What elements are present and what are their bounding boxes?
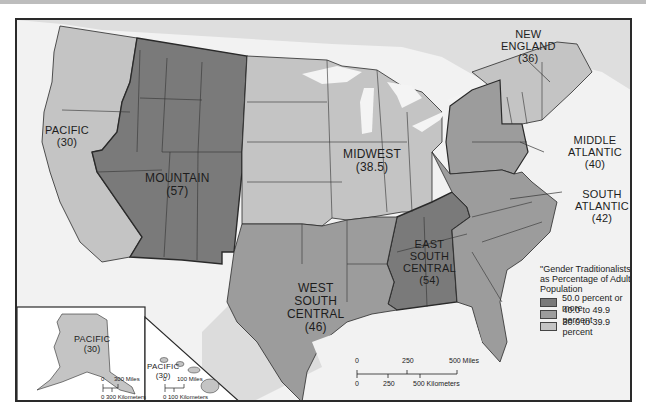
label-text: EAST [403,238,456,250]
legend-item-low: 30.0 to 39.9 percent [540,321,632,332]
legend-title: "Gender Traditionalists" as Percentage o… [540,264,632,294]
label-text: PACIFIC [45,124,89,136]
map-frame: PACIFIC (30) MOUNTAIN (57) MIDWEST (38.5… [15,18,632,402]
scale-label: 250 [402,357,414,364]
scale-label: 100 Miles [177,376,203,382]
scale-label: 0 300 Kilometers [101,394,146,400]
label-text: NEW [501,28,556,40]
label-west-south-central: WEST SOUTH CENTRAL (46) [287,282,344,334]
scale-label: 0 100 Kilometers [163,394,208,400]
label-text: ATLANTIC [568,146,622,158]
scale-label: 0 [355,357,359,364]
map-legend: "Gender Traditionalists" as Percentage o… [540,264,632,333]
label-value: (30) [45,136,89,148]
label-text: SOUTH [403,250,456,262]
label-east-south-central: EAST SOUTH CENTRAL (54) [403,238,456,286]
scale-label: 250 [383,380,395,387]
legend-label: 30.0 to 39.9 percent [562,317,632,337]
label-midwest: MIDWEST (38.5) [343,148,401,174]
label-text: PACIFIC [147,362,179,371]
label-pacific: PACIFIC (30) [45,124,89,148]
label-mountain: MOUNTAIN (57) [145,172,210,198]
label-value: (42) [575,212,629,224]
label-text: CENTRAL [403,262,456,274]
label-value: (40) [568,158,622,170]
label-value: (54) [403,274,456,286]
legend-swatch-mid [540,310,557,319]
scale-label: 0 [355,380,359,387]
label-text: ENGLAND [501,40,556,52]
label-text: SOUTH [575,188,629,200]
label-south-atlantic: SOUTH ATLANTIC (42) [575,188,629,224]
label-text: PACIFIC [74,334,110,344]
label-text: MIDDLE [568,134,622,146]
label-alaska: PACIFIC (30) [74,334,110,354]
scale-label: 500 Kilometers [413,380,460,387]
legend-title-line: "Gender Traditionalists" [540,264,632,274]
scale-label: 300 Miles [114,376,140,382]
label-value: (36) [501,52,556,64]
legend-title-line: as Percentage of Adult [540,274,632,284]
label-middle-atlantic: MIDDLE ATLANTIC (40) [568,134,622,170]
label-new-england: NEW ENGLAND (36) [501,28,556,64]
top-border-strip [0,0,646,4]
scale-label: 0 [163,376,166,382]
label-value: (38.5) [343,161,401,174]
legend-swatch-high [540,298,557,307]
label-value: (30) [74,344,110,354]
scale-label: 0 [101,376,104,382]
scale-label: 500 Miles [449,357,479,364]
label-value: (57) [145,185,210,198]
label-text: ATLANTIC [575,200,629,212]
legend-swatch-low [540,322,557,331]
label-value: (46) [287,321,344,334]
